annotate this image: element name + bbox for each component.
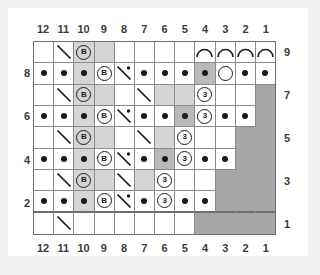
grid-cell-r4-c11[interactable] <box>54 149 74 170</box>
grid-cell-r9-c8[interactable] <box>115 42 135 63</box>
stitch-grid[interactable]: BBB3B3B3B3B3B3 <box>33 41 276 235</box>
grid-cell-r4-c3[interactable] <box>216 149 236 170</box>
grid-cell-r7-c8[interactable] <box>115 85 135 106</box>
grid-cell-r5-c2[interactable] <box>236 127 256 148</box>
grid-cell-r5-c9[interactable] <box>95 127 115 148</box>
grid-cell-r2-c8[interactable] <box>115 191 135 212</box>
grid-cell-r2-c12[interactable] <box>34 191 54 212</box>
grid-cell-r7-c3[interactable] <box>216 85 236 106</box>
grid-cell-r5-c4[interactable] <box>195 127 215 148</box>
grid-cell-r8-c7[interactable] <box>135 63 155 84</box>
grid-cell-r5-c5[interactable]: 3 <box>175 127 195 148</box>
grid-cell-r6-c1[interactable] <box>256 106 275 127</box>
grid-cell-r9-c6[interactable] <box>155 42 175 63</box>
grid-cell-r8-c2[interactable] <box>236 63 256 84</box>
grid-cell-r9-c7[interactable] <box>135 42 155 63</box>
grid-cell-r1-c11[interactable] <box>54 213 74 234</box>
grid-cell-r3-c6[interactable]: 3 <box>155 170 175 191</box>
grid-cell-r7-c7[interactable] <box>135 85 155 106</box>
grid-cell-r6-c11[interactable] <box>54 106 74 127</box>
grid-cell-r7-c1[interactable] <box>256 85 275 106</box>
grid-cell-r1-c5[interactable] <box>175 213 195 234</box>
grid-cell-r1-c7[interactable] <box>135 213 155 234</box>
grid-cell-r1-c2[interactable] <box>236 213 256 234</box>
grid-cell-r6-c2[interactable] <box>236 106 256 127</box>
grid-cell-r3-c3[interactable] <box>216 170 236 191</box>
grid-cell-r2-c6[interactable]: 3 <box>155 191 175 212</box>
grid-cell-r8-c6[interactable] <box>155 63 175 84</box>
grid-cell-r7-c12[interactable] <box>34 85 54 106</box>
grid-cell-r4-c7[interactable] <box>135 149 155 170</box>
grid-cell-r3-c12[interactable] <box>34 170 54 191</box>
grid-cell-r9-c1[interactable] <box>256 42 275 63</box>
grid-cell-r4-c10[interactable] <box>74 149 94 170</box>
grid-cell-r8-c11[interactable] <box>54 63 74 84</box>
grid-cell-r4-c8[interactable] <box>115 149 135 170</box>
grid-cell-r3-c1[interactable] <box>256 170 275 191</box>
grid-cell-r1-c12[interactable] <box>34 213 54 234</box>
grid-cell-r9-c10[interactable]: B <box>74 42 94 63</box>
grid-cell-r8-c3[interactable] <box>216 63 236 84</box>
grid-cell-r1-c8[interactable] <box>115 213 135 234</box>
grid-cell-r3-c10[interactable]: B <box>74 170 94 191</box>
grid-cell-r3-c4[interactable] <box>195 170 215 191</box>
grid-cell-r5-c6[interactable] <box>155 127 175 148</box>
grid-cell-r2-c5[interactable] <box>175 191 195 212</box>
grid-cell-r2-c4[interactable] <box>195 191 215 212</box>
grid-cell-r4-c2[interactable] <box>236 149 256 170</box>
grid-cell-r6-c10[interactable] <box>74 106 94 127</box>
grid-cell-r1-c4[interactable] <box>195 213 215 234</box>
grid-cell-r6-c8[interactable] <box>115 106 135 127</box>
grid-cell-r6-c7[interactable] <box>135 106 155 127</box>
grid-cell-r8-c8[interactable] <box>115 63 135 84</box>
grid-cell-r7-c10[interactable]: B <box>74 85 94 106</box>
grid-cell-r9-c12[interactable] <box>34 42 54 63</box>
grid-cell-r9-c2[interactable] <box>236 42 256 63</box>
grid-cell-r1-c6[interactable] <box>155 213 175 234</box>
grid-cell-r5-c10[interactable]: B <box>74 127 94 148</box>
grid-cell-r7-c9[interactable] <box>95 85 115 106</box>
grid-cell-r4-c9[interactable]: B <box>95 149 115 170</box>
grid-cell-r6-c5[interactable] <box>175 106 195 127</box>
grid-cell-r6-c6[interactable] <box>155 106 175 127</box>
grid-cell-r6-c3[interactable] <box>216 106 236 127</box>
grid-cell-r1-c3[interactable] <box>216 213 236 234</box>
grid-cell-r5-c8[interactable] <box>115 127 135 148</box>
grid-cell-r2-c9[interactable]: B <box>95 191 115 212</box>
grid-cell-r2-c2[interactable] <box>236 191 256 212</box>
grid-cell-r5-c3[interactable] <box>216 127 236 148</box>
grid-cell-r2-c3[interactable] <box>216 191 236 212</box>
grid-cell-r4-c12[interactable] <box>34 149 54 170</box>
grid-cell-r8-c9[interactable]: B <box>95 63 115 84</box>
grid-cell-r1-c10[interactable] <box>74 213 94 234</box>
grid-cell-r4-c5[interactable]: 3 <box>175 149 195 170</box>
grid-cell-r6-c4[interactable]: 3 <box>195 106 215 127</box>
grid-cell-r7-c2[interactable] <box>236 85 256 106</box>
grid-cell-r4-c6[interactable] <box>155 149 175 170</box>
grid-cell-r5-c7[interactable] <box>135 127 155 148</box>
grid-cell-r9-c4[interactable] <box>195 42 215 63</box>
grid-cell-r5-c1[interactable] <box>256 127 275 148</box>
grid-cell-r7-c4[interactable]: 3 <box>195 85 215 106</box>
grid-cell-r3-c9[interactable] <box>95 170 115 191</box>
grid-cell-r4-c4[interactable] <box>195 149 215 170</box>
grid-cell-r2-c11[interactable] <box>54 191 74 212</box>
grid-cell-r5-c12[interactable] <box>34 127 54 148</box>
grid-cell-r8-c10[interactable] <box>74 63 94 84</box>
grid-cell-r8-c4[interactable] <box>195 63 215 84</box>
grid-cell-r8-c1[interactable] <box>256 63 275 84</box>
grid-cell-r1-c9[interactable] <box>95 213 115 234</box>
grid-cell-r2-c10[interactable] <box>74 191 94 212</box>
grid-cell-r9-c5[interactable] <box>175 42 195 63</box>
grid-cell-r5-c11[interactable] <box>54 127 74 148</box>
grid-cell-r8-c5[interactable] <box>175 63 195 84</box>
grid-cell-r3-c11[interactable] <box>54 170 74 191</box>
grid-cell-r7-c11[interactable] <box>54 85 74 106</box>
grid-cell-r3-c7[interactable] <box>135 170 155 191</box>
grid-cell-r2-c7[interactable] <box>135 191 155 212</box>
grid-cell-r4-c1[interactable] <box>256 149 275 170</box>
grid-cell-r9-c3[interactable] <box>216 42 236 63</box>
grid-cell-r9-c11[interactable] <box>54 42 74 63</box>
grid-cell-r7-c6[interactable] <box>155 85 175 106</box>
grid-cell-r1-c1[interactable] <box>256 213 275 234</box>
